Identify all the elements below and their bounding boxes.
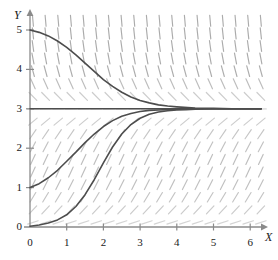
plot-canvas [0,0,278,260]
x-tick-label: 4 [167,237,187,248]
y-tick-label: 4 [6,63,22,74]
x-axis-name: X [265,231,272,243]
direction-field-layer [27,15,266,224]
x-tick-label: 5 [204,237,224,248]
solution-curve [30,109,261,226]
solution-curves-layer [30,30,261,226]
y-tick-label: 2 [6,142,22,153]
y-tick-label: 0 [6,221,22,232]
solution-curve [30,30,261,109]
y-tick-label: 3 [6,103,22,114]
y-tick-label: 1 [6,182,22,193]
x-tick-label: 3 [130,237,150,248]
x-tick-label: 1 [57,237,77,248]
y-axis-name: Y [14,9,21,21]
y-tick-label: 5 [6,24,22,35]
x-tick-label: 0 [20,237,40,248]
direction-field-figure: Y X 0123456012345 [0,0,278,260]
x-tick-label: 2 [93,237,113,248]
x-tick-label: 6 [240,237,260,248]
